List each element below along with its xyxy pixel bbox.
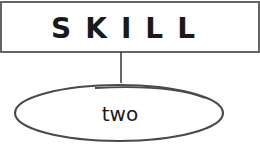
root-node-label: SKILL <box>51 12 209 45</box>
root-node: SKILL <box>1 2 259 52</box>
diagram-canvas: SKILL two <box>0 0 260 150</box>
child-node-label: two <box>102 102 138 126</box>
child-node: two <box>15 85 223 141</box>
